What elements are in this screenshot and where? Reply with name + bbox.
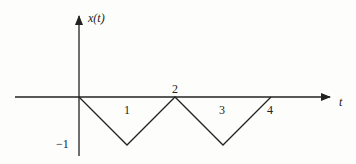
triangle-wave <box>79 97 271 145</box>
tick-label-2: 2 <box>172 82 178 96</box>
tick-label-3: 3 <box>219 103 225 117</box>
tick-label-4: 4 <box>267 103 273 117</box>
tick-label-neg1: −1 <box>56 137 69 151</box>
y-axis-label: x(t) <box>87 11 105 25</box>
tick-label-1: 1 <box>124 103 130 117</box>
signal-plot: x(t) t 1 2 3 4 −1 <box>0 0 356 164</box>
x-axis-label: t <box>339 95 343 109</box>
